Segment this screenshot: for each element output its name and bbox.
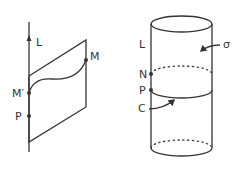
cylinder-bottom-front bbox=[151, 148, 212, 156]
point-mprime-label: M′ bbox=[12, 87, 24, 100]
line-l-right-label: L bbox=[139, 38, 146, 51]
curve-c-front bbox=[151, 90, 212, 98]
point-mprime bbox=[27, 91, 31, 95]
point-m-label: M bbox=[90, 50, 100, 63]
left-figure: L M M′ P bbox=[12, 22, 100, 152]
line-l-arrow-icon bbox=[27, 35, 32, 41]
point-p-right bbox=[149, 88, 153, 92]
point-n-label: N bbox=[139, 68, 147, 81]
half-plane bbox=[29, 40, 86, 142]
diagram-canvas: L M M′ P L σ N P C bbox=[0, 0, 244, 172]
point-p-left-label: P bbox=[15, 110, 22, 123]
sigma-arrow-icon bbox=[201, 45, 220, 51]
curve-c-label: C bbox=[138, 102, 146, 115]
right-figure: L σ N P C bbox=[138, 16, 230, 156]
line-l-label: L bbox=[36, 36, 43, 49]
cylinder-top-ellipse bbox=[151, 16, 212, 32]
circle-through-n-back bbox=[151, 66, 212, 74]
surface-sigma-label: σ bbox=[223, 38, 230, 51]
point-p-right-label: P bbox=[139, 84, 146, 97]
curve-c-arrow-icon bbox=[149, 100, 174, 109]
cylinder-bottom-back bbox=[151, 140, 212, 148]
point-m bbox=[84, 58, 88, 62]
point-n bbox=[149, 72, 153, 76]
trajectory-curve bbox=[29, 60, 86, 93]
point-p-left bbox=[27, 114, 31, 118]
